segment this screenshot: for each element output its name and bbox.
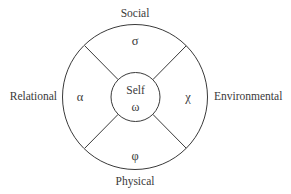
quadrant-label-relational: Relational: [10, 90, 57, 102]
quadrant-label-environmental: Environmental: [214, 90, 282, 102]
self-wheel-diagram: Social Environmental Physical Relational…: [0, 0, 291, 194]
quadrant-label-physical: Physical: [116, 175, 155, 188]
spoke-upper-right: [153, 46, 187, 80]
center-symbol-omega: ω: [132, 100, 140, 114]
spoke-lower-right: [153, 114, 187, 148]
quadrant-symbol-environmental: χ: [184, 90, 191, 104]
quadrant-label-social: Social: [121, 7, 150, 19]
quadrant-symbol-social: σ: [132, 34, 139, 48]
quadrant-symbol-relational: α: [77, 90, 84, 104]
inner-circle: [111, 73, 160, 122]
spoke-lower-left: [85, 114, 119, 148]
diagram-canvas: Social Environmental Physical Relational…: [0, 0, 291, 194]
center-label-self: Self: [126, 84, 145, 96]
spoke-upper-left: [85, 46, 119, 80]
quadrant-symbol-physical: φ: [131, 149, 138, 163]
